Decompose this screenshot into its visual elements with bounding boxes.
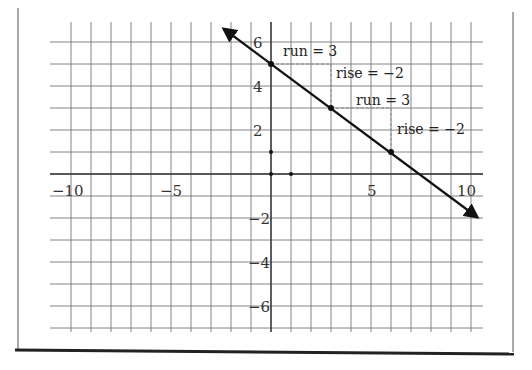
- rise-label-1: rise = −2: [336, 65, 404, 81]
- y-tick-label: −6: [248, 298, 270, 316]
- x-tick-label: −10: [52, 182, 84, 200]
- run-label-2: run = 3: [356, 92, 410, 108]
- coordinate-plane-figure: −10 −5 5 10 6 4 2 −2 −4 −6 run = 3 rise …: [0, 0, 532, 370]
- point-3-3: [328, 105, 334, 111]
- origin-marker: [269, 172, 273, 176]
- x-tick-label: −5: [160, 182, 182, 200]
- x-tick-label: 10: [457, 182, 476, 200]
- y-tick-label: −4: [248, 254, 270, 272]
- run-label-1: run = 3: [283, 43, 337, 59]
- point-0-5: [268, 61, 274, 67]
- x-tick-label: 5: [367, 182, 377, 200]
- unit-marker-0-1: [269, 150, 273, 154]
- point-6-1: [388, 149, 394, 155]
- unit-marker-1-0: [289, 172, 293, 176]
- frame-bottom-rule: [15, 350, 514, 354]
- y-tick-label: −2: [248, 210, 270, 228]
- y-tick-label: 4: [253, 78, 263, 96]
- grid: [50, 22, 483, 332]
- y-tick-label: 6: [253, 34, 263, 52]
- rise-label-2: rise = −2: [397, 121, 465, 137]
- y-tick-label: 2: [253, 122, 263, 140]
